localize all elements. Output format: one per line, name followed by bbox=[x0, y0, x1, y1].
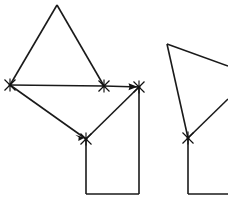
figure-svg bbox=[0, 0, 228, 205]
left-triangle-base-edge bbox=[10, 85, 104, 86]
figure-canvas bbox=[0, 0, 228, 205]
